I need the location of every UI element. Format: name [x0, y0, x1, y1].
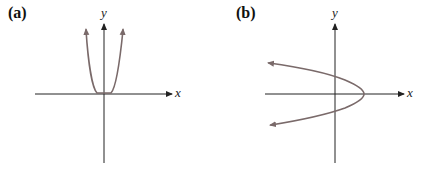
- graphs-canvas: [0, 0, 421, 171]
- panel-b-graph: [265, 24, 404, 163]
- panel-a-graph: [35, 24, 172, 163]
